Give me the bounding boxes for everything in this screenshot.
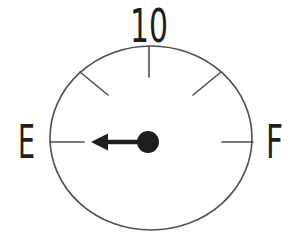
- fuel-gauge-diagram: 10 E F: [0, 0, 292, 252]
- gauge-label-full: F: [266, 115, 283, 169]
- gauge-tick-upper-left: [80, 72, 108, 95]
- gauge-tick-upper-right: [193, 72, 221, 95]
- gauge-label-top: 10: [130, 0, 168, 53]
- gauge-label-empty: E: [18, 115, 35, 169]
- gauge-needle: [91, 131, 159, 153]
- needle-pivot-dot: [137, 131, 159, 153]
- needle-arrowhead: [91, 134, 108, 151]
- fuel-gauge: 10 E F: [0, 0, 292, 252]
